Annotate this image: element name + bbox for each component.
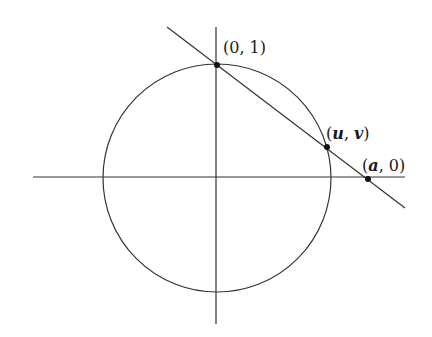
unit-circle	[103, 64, 331, 292]
point-0-1	[214, 62, 220, 68]
label-u-v: (u, v)	[326, 124, 370, 143]
point-a-0	[365, 176, 371, 182]
label-a-0: (a, 0)	[362, 156, 405, 175]
unit-circle-diagram: (0, 1) (u, v) (a, 0)	[0, 0, 432, 337]
label-0-1: (0, 1)	[223, 38, 266, 57]
point-u-v	[324, 144, 330, 150]
